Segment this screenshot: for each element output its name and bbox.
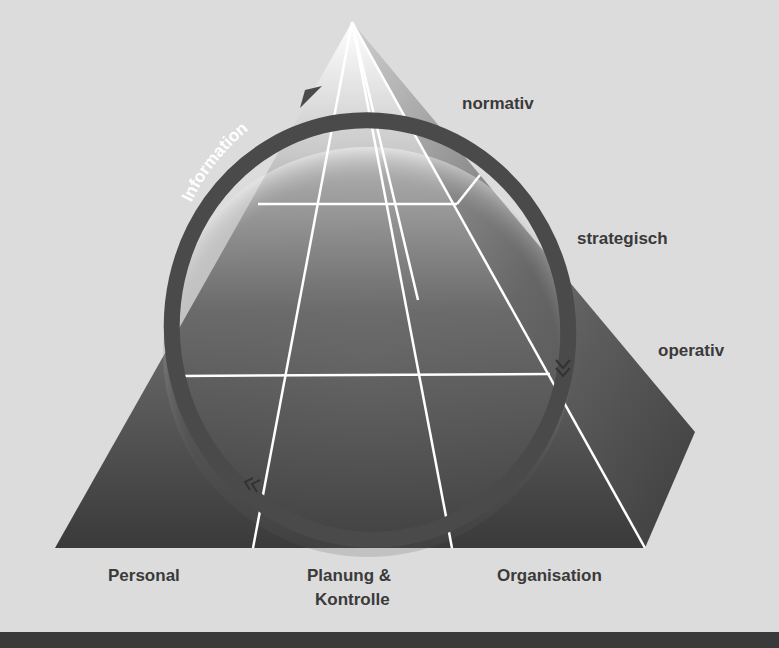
bottom-bar: [0, 632, 779, 648]
dimension-label-organisation: Organisation: [497, 566, 602, 586]
level-label-normativ: normativ: [462, 94, 534, 114]
pyramid-diagram: Information normativ strategisch operati…: [0, 0, 779, 648]
dimension-label-personal: Personal: [108, 566, 180, 586]
dimension-label-planung: Planung &: [307, 566, 391, 586]
dimension-label-kontrolle: Kontrolle: [315, 590, 390, 610]
level-label-strategisch: strategisch: [577, 229, 668, 249]
pyramid-graphic: Information: [0, 0, 779, 648]
level-label-operativ: operativ: [658, 341, 724, 361]
sphere: [163, 147, 573, 557]
